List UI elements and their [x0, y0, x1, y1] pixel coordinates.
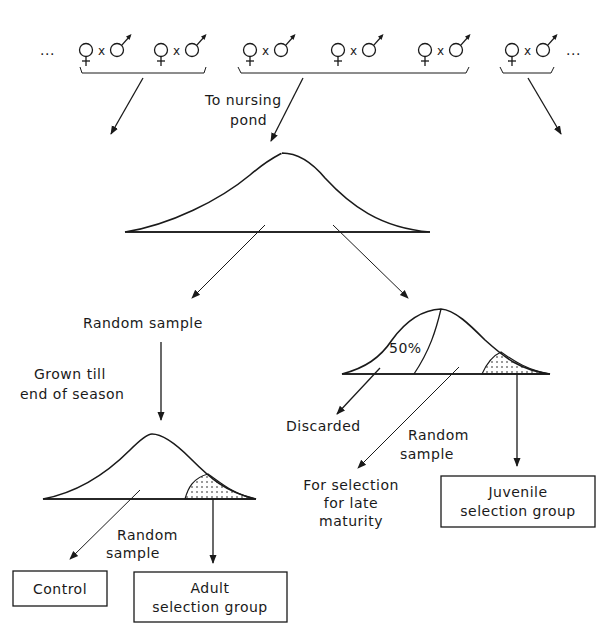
grown-till-label-line1: Grown till — [34, 366, 106, 382]
female-symbol-icon — [332, 44, 345, 67]
random-sample-right-line2: sample — [400, 446, 454, 462]
to-nursing-label-line2: pond — [230, 112, 267, 128]
adult-distribution — [43, 434, 256, 499]
nursing-pond-distribution — [125, 153, 430, 232]
for-selection-label-line2: for late — [324, 495, 378, 511]
for-selection-label-line3: maturity — [319, 513, 383, 529]
male-symbol-icon — [275, 34, 296, 57]
group-bracket — [238, 67, 469, 73]
cross-group-3: x — [500, 34, 558, 73]
control-box: Control — [13, 571, 107, 606]
cross-group-1: x x — [80, 34, 207, 73]
random-sample-right-line1: Random — [408, 427, 469, 443]
to-nursing-label-line1: To nursing — [204, 92, 282, 108]
fifty-percent-label: 50% — [389, 340, 422, 356]
cross-sign: x — [524, 44, 531, 58]
arrow-group-1 — [111, 78, 143, 134]
female-symbol-icon — [80, 44, 93, 67]
cross-sign: x — [437, 44, 444, 58]
female-symbol-icon — [419, 44, 432, 67]
male-symbol-icon — [186, 34, 207, 57]
left-ellipsis: ... — [40, 42, 55, 58]
female-symbol-icon — [244, 44, 257, 67]
female-symbol-icon — [155, 44, 168, 67]
male-symbol-icon — [450, 34, 471, 57]
male-symbol-icon — [363, 34, 384, 57]
adult-selection-label-line1: Adult — [191, 580, 230, 596]
female-symbol-icon — [506, 44, 519, 67]
adult-selection-box: Adult selection group — [134, 572, 287, 622]
for-selection-label-line1: For selection — [303, 477, 399, 493]
group-bracket — [80, 67, 206, 73]
arrow-to-nursing-pond — [271, 78, 303, 141]
male-symbol-icon — [111, 34, 132, 57]
juvenile-selection-label-line1: Juvenile — [487, 484, 547, 500]
cross-sign: x — [262, 44, 269, 58]
random-sample-adult-line1: Random — [117, 527, 178, 543]
arrow-to-random-sample — [192, 225, 265, 298]
arrow-to-juvenile-distribution — [333, 225, 408, 298]
cross-group-2: x x x — [238, 34, 471, 73]
arrow-group-3 — [528, 78, 561, 134]
juvenile-distribution: 50% — [342, 309, 550, 374]
male-symbol-icon — [537, 34, 558, 57]
juvenile-selection-label-line2: selection group — [460, 503, 576, 519]
arrow-to-discarded — [337, 368, 380, 414]
right-ellipsis: ... — [566, 42, 581, 58]
cross-sign: x — [173, 44, 180, 58]
normal-curve — [125, 153, 430, 232]
cross-sign: x — [350, 44, 357, 58]
random-sample-label: Random sample — [83, 315, 203, 331]
adult-selection-label-line2: selection group — [152, 599, 268, 615]
discarded-label: Discarded — [286, 418, 361, 434]
group-bracket — [500, 67, 554, 73]
selection-scheme-diagram: ... x x x x x x — [0, 0, 608, 635]
crosses-row: ... x x x x x x — [40, 34, 581, 73]
random-sample-adult-line2: sample — [106, 545, 160, 561]
cross-sign: x — [98, 44, 105, 58]
grown-till-label-line2: end of season — [20, 386, 125, 402]
control-label: Control — [33, 581, 87, 597]
juvenile-selection-box: Juvenile selection group — [441, 476, 595, 527]
